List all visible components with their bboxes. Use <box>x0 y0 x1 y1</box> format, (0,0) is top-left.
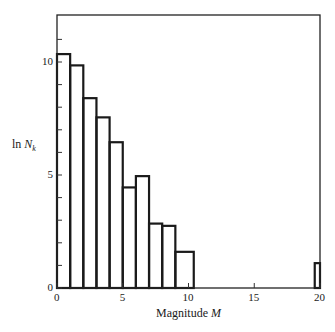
histogram-bar <box>136 176 149 288</box>
y-tick-label: 10 <box>42 56 53 67</box>
y-tick-label: 5 <box>48 169 54 180</box>
histogram-bar <box>315 263 320 288</box>
histogram-bar <box>175 252 193 288</box>
y-tick-label: 0 <box>48 282 54 293</box>
x-tick-label: 15 <box>248 292 259 303</box>
y-axis-label: ln Nk <box>12 137 36 153</box>
histogram-bar <box>123 187 136 288</box>
x-tick-label: 10 <box>183 292 194 303</box>
histogram-bar <box>162 226 175 288</box>
histogram-bar <box>57 54 70 288</box>
x-axis-label: Magnitude M <box>156 306 221 321</box>
histogram-bar <box>96 117 109 288</box>
x-axis-variable: M <box>211 306 221 320</box>
histogram-bar <box>83 98 96 288</box>
histogram-bar <box>149 224 162 288</box>
x-tick-label: 0 <box>54 292 60 303</box>
x-tick-label: 20 <box>314 292 325 303</box>
histogram-bars <box>57 54 320 288</box>
histogram-bar <box>110 142 123 288</box>
histogram-bar <box>70 65 83 288</box>
x-tick-label: 5 <box>120 292 126 303</box>
